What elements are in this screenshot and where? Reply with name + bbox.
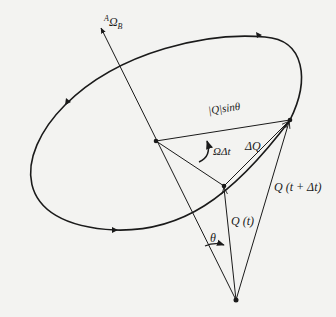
theta-label: θ	[210, 232, 216, 244]
delta-q-label: ΔQ	[245, 140, 261, 152]
omega-delta-t-label: ΩΔt	[213, 146, 230, 157]
q-t-vector	[224, 188, 236, 300]
delta-q-vector	[224, 122, 288, 186]
q-t-point	[222, 184, 227, 189]
q-t-label: Q (t)	[231, 215, 254, 227]
q-t-dt-point	[288, 118, 293, 123]
precession-diagram: AΩB |Q|sinθ ΩΔt ΔQ Q (t + Δt) Q (t) θ	[0, 0, 336, 317]
q-t-dt-label: Q (t + Δt)	[274, 181, 321, 193]
orbit-ellipse	[31, 36, 302, 230]
omega-dt-arc-arrow	[199, 141, 208, 162]
omega-b-label: AΩB	[104, 15, 122, 31]
q-t-dt-vector	[236, 122, 289, 300]
diagram-canvas	[0, 0, 336, 317]
origin-point	[234, 298, 239, 303]
radius-to-q-t-dt	[156, 120, 290, 141]
omega-axis	[101, 28, 236, 300]
center-point	[154, 139, 159, 144]
orbit-arrow-bottom	[112, 227, 118, 233]
